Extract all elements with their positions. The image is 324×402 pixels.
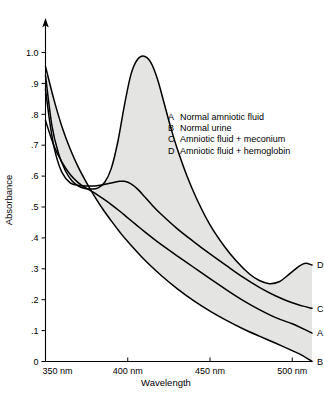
x-axis-tick-labels: 350 nm400 nm450 nm500 nm xyxy=(43,366,308,376)
y-tick-label: 0 xyxy=(33,357,38,367)
legend: ANormal amniotic fluidBNormal urineCAmni… xyxy=(168,112,290,156)
x-tick-label: 500 nm xyxy=(277,366,307,376)
legend-key-C: C xyxy=(168,134,175,144)
y-axis-title: Absorbance xyxy=(3,175,14,226)
legend-label-D: Amniotic fluid + hemoglobin xyxy=(180,146,290,156)
x-tick-label: 400 nm xyxy=(113,366,143,376)
x-tick-label: 350 nm xyxy=(43,366,73,376)
legend-key-B: B xyxy=(168,123,174,133)
spectral-absorbance-chart: 0.1.2.3.4.5.6.7.8.91.0 350 nm400 nm450 n… xyxy=(0,0,324,402)
y-tick-label: .4 xyxy=(31,233,39,243)
curve-end-label-D: D xyxy=(317,260,324,270)
x-axis-ticks xyxy=(46,358,293,362)
y-tick-label: 1.0 xyxy=(26,48,39,58)
y-tick-label: .5 xyxy=(31,202,39,212)
legend-label-B: Normal urine xyxy=(180,123,232,133)
y-tick-label: .7 xyxy=(31,140,39,150)
y-tick-label: .9 xyxy=(31,79,39,89)
curve-end-label-C: C xyxy=(317,304,324,314)
curve-end-label-B: B xyxy=(317,357,323,367)
legend-key-A: A xyxy=(168,112,174,122)
legend-label-C: Amniotic fluid + meconium xyxy=(180,134,285,144)
y-axis-tick-labels: 0.1.2.3.4.5.6.7.8.91.0 xyxy=(26,48,39,367)
legend-label-A: Normal amniotic fluid xyxy=(180,112,264,122)
y-tick-label: .1 xyxy=(31,326,39,336)
curve-end-labels-group: ABCD xyxy=(317,260,324,366)
y-tick-label: .6 xyxy=(31,171,39,181)
y-tick-label: .3 xyxy=(31,264,39,274)
y-axis-ticks xyxy=(42,53,46,362)
x-tick-label: 450 nm xyxy=(195,366,225,376)
figure-container: 0.1.2.3.4.5.6.7.8.91.0 350 nm400 nm450 n… xyxy=(0,0,324,402)
x-axis-title: Wavelength xyxy=(141,377,191,388)
y-tick-label: .8 xyxy=(31,110,39,120)
y-tick-label: .2 xyxy=(31,295,39,305)
curve-end-label-A: A xyxy=(317,328,323,338)
legend-key-D: D xyxy=(168,146,175,156)
